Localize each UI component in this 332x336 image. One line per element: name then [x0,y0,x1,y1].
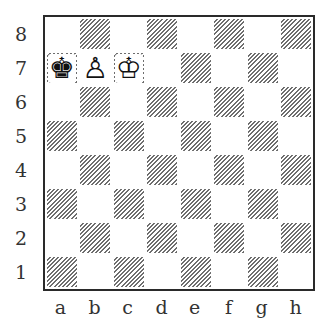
square-b8[interactable] [79,17,113,51]
black-king-icon[interactable]: ♚ [48,54,76,83]
square-d7[interactable] [146,51,180,85]
square-d3[interactable] [146,187,180,221]
square-a4[interactable] [45,153,79,187]
square-a1[interactable] [45,255,79,289]
square-f4[interactable] [213,153,247,187]
square-g4[interactable] [246,153,280,187]
rank-label-6: 6 [10,91,32,113]
square-e7[interactable] [179,51,213,85]
square-a5[interactable] [45,119,79,153]
rank-label-7: 7 [10,57,32,79]
square-f1[interactable] [213,255,247,289]
square-f7[interactable] [213,51,247,85]
square-a3[interactable] [45,187,79,221]
square-e4[interactable] [179,153,213,187]
square-b7[interactable]: ♙ [79,51,113,85]
file-label-f: f [212,296,245,318]
rank-label-5: 5 [10,125,32,147]
square-c7[interactable]: ♔ [112,51,146,85]
white-king-icon[interactable]: ♔ [115,54,143,83]
square-g8[interactable] [246,17,280,51]
square-h8[interactable] [280,17,314,51]
rank-label-3: 3 [10,193,32,215]
square-b4[interactable] [79,153,113,187]
square-b3[interactable] [79,187,113,221]
square-h4[interactable] [280,153,314,187]
square-d5[interactable] [146,119,180,153]
square-c2[interactable] [112,221,146,255]
square-a8[interactable] [45,17,79,51]
square-d8[interactable] [146,17,180,51]
square-a2[interactable] [45,221,79,255]
square-a7[interactable]: ♚ [45,51,79,85]
file-label-h: h [279,296,312,318]
square-h3[interactable] [280,187,314,221]
square-b2[interactable] [79,221,113,255]
rank-label-1: 1 [10,261,32,283]
square-c6[interactable] [112,85,146,119]
square-e5[interactable] [179,119,213,153]
file-label-c: c [111,296,144,318]
file-label-a: a [44,296,77,318]
square-g5[interactable] [246,119,280,153]
square-c1[interactable] [112,255,146,289]
square-g6[interactable] [246,85,280,119]
square-h7[interactable] [280,51,314,85]
square-c4[interactable] [112,153,146,187]
file-label-e: e [178,296,211,318]
square-d1[interactable] [146,255,180,289]
square-b1[interactable] [79,255,113,289]
square-f5[interactable] [213,119,247,153]
rank-label-8: 8 [10,23,32,45]
square-h6[interactable] [280,85,314,119]
square-f3[interactable] [213,187,247,221]
square-e8[interactable] [179,17,213,51]
white-pawn-icon[interactable]: ♙ [82,54,108,83]
square-f6[interactable] [213,85,247,119]
square-f2[interactable] [213,221,247,255]
file-label-b: b [78,296,111,318]
square-h1[interactable] [280,255,314,289]
square-h5[interactable] [280,119,314,153]
square-b5[interactable] [79,119,113,153]
square-e2[interactable] [179,221,213,255]
square-h2[interactable] [280,221,314,255]
square-b6[interactable] [79,85,113,119]
chess-board: ♚ ♙ ♔ [43,15,315,291]
square-c5[interactable] [112,119,146,153]
square-g2[interactable] [246,221,280,255]
square-f8[interactable] [213,17,247,51]
square-e1[interactable] [179,255,213,289]
square-g7[interactable] [246,51,280,85]
square-d2[interactable] [146,221,180,255]
rank-label-2: 2 [10,227,32,249]
square-d6[interactable] [146,85,180,119]
file-label-d: d [145,296,178,318]
square-c8[interactable] [112,17,146,51]
square-a6[interactable] [45,85,79,119]
square-g3[interactable] [246,187,280,221]
square-g1[interactable] [246,255,280,289]
file-label-g: g [245,296,278,318]
square-e3[interactable] [179,187,213,221]
square-d4[interactable] [146,153,180,187]
square-c3[interactable] [112,187,146,221]
rank-label-4: 4 [10,159,32,181]
square-e6[interactable] [179,85,213,119]
